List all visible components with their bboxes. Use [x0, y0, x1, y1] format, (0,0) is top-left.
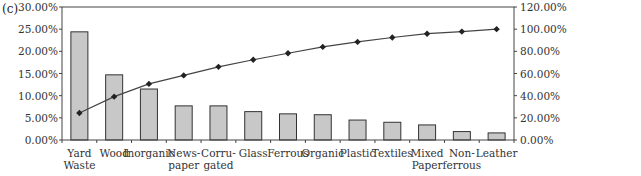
left-tick-label: 15.00% [18, 68, 58, 80]
left-tick-label: 20.00% [18, 45, 58, 57]
bar [488, 133, 505, 140]
right-y-axis: 0.00%20.00%40.00%60.00%80.00%100.00%120.… [514, 1, 567, 146]
x-tick-label: Non- [449, 147, 475, 159]
right-tick-label: 0.00% [520, 134, 553, 146]
diamond-marker [493, 26, 499, 32]
right-tick-label: 100.00% [520, 23, 567, 35]
bar [210, 106, 227, 140]
x-tick-label: Leather [476, 147, 519, 159]
x-tick-label: Yard [66, 147, 91, 159]
diamond-marker [389, 34, 395, 40]
right-tick-label: 80.00% [520, 45, 560, 57]
diamond-marker [285, 50, 291, 56]
x-tick-label: Paper [412, 159, 444, 171]
left-tick-label: 10.00% [18, 90, 58, 102]
x-axis: YardWasteWoodInorganicNews-paperCorru-ga… [62, 140, 518, 171]
diamond-marker [459, 28, 465, 34]
x-tick-label: paper [168, 159, 200, 171]
diamond-marker [354, 39, 360, 45]
right-tick-label: 60.00% [520, 68, 560, 80]
bar [106, 75, 123, 140]
right-tick-label: 20.00% [520, 112, 560, 124]
left-tick-label: 5.00% [25, 112, 58, 124]
diamond-marker [215, 64, 221, 70]
left-y-axis: 0.00%5.00%10.00%15.00%20.00%25.00%30.00% [18, 1, 62, 146]
diamond-marker [146, 81, 152, 87]
bar-series [71, 32, 505, 140]
left-tick-label: 30.00% [18, 1, 58, 13]
x-tick-label: Glass [239, 147, 268, 159]
bar [384, 122, 401, 140]
x-tick-label: Plastic [340, 147, 376, 159]
x-tick-label: Corru- [201, 147, 236, 159]
right-tick-label: 120.00% [520, 1, 567, 13]
x-tick-label: Textiles [372, 147, 413, 159]
left-tick-label: 0.00% [25, 134, 58, 146]
x-tick-label: Waste [63, 159, 95, 171]
bar [140, 89, 157, 140]
diamond-marker [250, 57, 256, 63]
bar [349, 120, 366, 140]
diamond-marker [320, 44, 326, 50]
bar [71, 32, 88, 140]
x-tick-label: ferrous [443, 159, 482, 171]
diamond-marker [180, 72, 186, 78]
bar [453, 132, 470, 140]
left-tick-label: 25.00% [18, 23, 58, 35]
right-tick-label: 40.00% [520, 90, 560, 102]
bar [419, 125, 436, 140]
x-tick-label: Organic [301, 147, 344, 159]
x-tick-label: gated [203, 159, 233, 171]
bar [245, 112, 262, 140]
cumulative-line-series [76, 26, 500, 116]
pareto-chart: 0.00%5.00%10.00%15.00%20.00%25.00%30.00%… [0, 0, 641, 176]
bar [314, 115, 331, 140]
diamond-marker [424, 31, 430, 37]
x-tick-label: Mixed [411, 147, 444, 159]
x-tick-label: News- [167, 147, 201, 159]
bar [280, 114, 297, 140]
bar [175, 106, 192, 140]
